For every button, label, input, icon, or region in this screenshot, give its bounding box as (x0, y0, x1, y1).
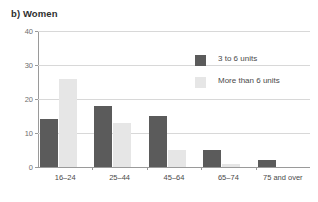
y-tick-label: 30 (25, 61, 33, 70)
chart-title: b) Women (11, 8, 58, 19)
bar-group (256, 31, 310, 167)
y-tick-label: 20 (25, 95, 33, 104)
y-tick-label: 40 (25, 27, 33, 36)
x-axis-line (38, 167, 310, 168)
bar (222, 164, 240, 167)
bar (113, 123, 131, 167)
x-tick-mark (256, 167, 257, 170)
bar (94, 106, 112, 167)
bar-group (38, 31, 92, 167)
x-tick-mark (147, 167, 148, 170)
x-tick-label: 75 and over (253, 173, 313, 183)
legend-swatch (195, 77, 206, 88)
bar (59, 79, 77, 167)
x-tick-label: 16–24 (35, 173, 95, 183)
bar (40, 119, 58, 167)
legend-label: 3 to 6 units (218, 54, 257, 63)
x-tick-label: 45–64 (144, 173, 204, 183)
y-tick-label: 0 (29, 163, 33, 172)
y-tick-label: 10 (25, 129, 33, 138)
bar-chart: b) Women 010203040 16–2425–4445–6465–747… (0, 0, 318, 202)
x-tick-label: 25–44 (90, 173, 150, 183)
legend-label: More than 6 units (218, 76, 280, 85)
bar (203, 150, 221, 167)
bar (168, 150, 186, 167)
plot-area: 010203040 (38, 31, 310, 167)
legend-swatch (195, 55, 206, 66)
bar-group (147, 31, 201, 167)
x-tick-mark (201, 167, 202, 170)
x-tick-label: 65–74 (198, 173, 258, 183)
bar-group (201, 31, 255, 167)
bar (149, 116, 167, 167)
bar (258, 160, 276, 167)
x-tick-mark (92, 167, 93, 170)
y-tick-mark (35, 167, 38, 168)
bar-group (92, 31, 146, 167)
